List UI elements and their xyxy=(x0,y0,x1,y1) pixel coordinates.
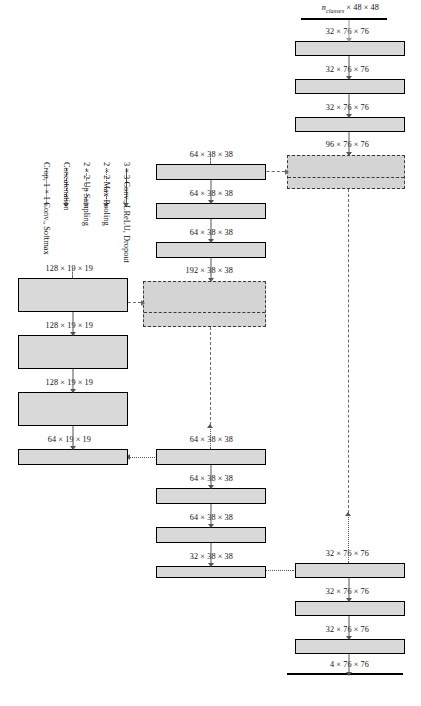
label-input: 4 × 76 × 76 xyxy=(330,661,369,669)
label-bottom-b: 128 × 19 × 19 xyxy=(46,322,93,330)
concat-level1-divider xyxy=(288,177,404,178)
legend-label-conv: 3 × 3 Conv., LReLU, Dropout xyxy=(122,162,130,263)
label-dec1-a: 32 × 76 × 76 xyxy=(326,104,369,112)
upsample-arrow-level2 xyxy=(210,154,211,164)
label-dec2-c: 64 × 38 × 38 xyxy=(190,151,233,159)
concat-level1-block xyxy=(287,155,405,189)
copy-arrow-level1 xyxy=(264,570,294,571)
skip-riser-level1 xyxy=(348,189,349,513)
label-bottom-a: 128 × 19 × 19 xyxy=(46,379,93,387)
encoder1-conv1-block xyxy=(295,639,405,654)
upsample-arrow-bottleneck xyxy=(72,268,73,278)
label-output: nclasses × 48 × 48 xyxy=(322,4,379,14)
label-enc2-c: 64 × 38 × 38 xyxy=(190,436,233,444)
encoder2-conv3-block xyxy=(156,449,266,465)
label-output-text: nclasses × 48 × 48 xyxy=(322,3,379,12)
legend-label-concat: Concatenation xyxy=(62,162,70,210)
encoder2-conv1-block xyxy=(156,527,266,543)
legend-label-upsample: 2 × 2 Up Sampling xyxy=(82,162,90,226)
legend: 3 × 3 Conv., LReLU, Dropout 2 × 2 Max-Po… xyxy=(15,76,135,206)
decoder1-conv3-block xyxy=(295,41,405,56)
encoder2-skip-block xyxy=(156,566,266,578)
skip-riser-level2 xyxy=(210,327,211,425)
decoder2-conv2-block xyxy=(156,203,266,219)
encoder1-conv2-block xyxy=(295,601,405,616)
decoder2-conv1-block xyxy=(156,242,266,258)
architecture-diagram: 4 × 76 × 76 32 × 76 × 76 32 × 76 × 76 32… xyxy=(0,0,421,706)
concat-level2-block xyxy=(143,281,266,327)
label-dec2-concat: 192 × 38 × 38 xyxy=(186,267,233,275)
decoder2-conv3-block xyxy=(156,164,266,180)
decoder1-conv1-block xyxy=(295,117,405,132)
maxpool-arrow-level1 xyxy=(348,513,349,563)
copy-arrow-level2 xyxy=(130,457,155,458)
label-enc1-a: 32 × 76 × 76 xyxy=(326,626,369,634)
label-enc1-b: 32 × 76 × 76 xyxy=(326,588,369,596)
maxpool-arrow-level2 xyxy=(210,425,211,449)
label-dec1-concat: 96 × 76 × 76 xyxy=(326,141,369,149)
encoder2-conv2-block xyxy=(156,488,266,504)
encoder1-conv3-block xyxy=(295,563,405,578)
bottleneck-conv2-block xyxy=(18,335,128,369)
label-output-sub: classes xyxy=(326,7,344,14)
legend-label-pool: 2 × 2 Max-Pooling xyxy=(102,162,110,226)
label-bottom-c: 128 × 19 × 19 xyxy=(46,265,93,273)
concat-level2-divider xyxy=(144,312,265,313)
input-layer xyxy=(287,673,403,675)
bottleneck-input-block xyxy=(18,449,128,465)
label-dec1-b: 32 × 76 × 76 xyxy=(326,66,369,74)
bottleneck-conv1-block xyxy=(18,392,128,426)
output-layer xyxy=(301,18,387,20)
decoder1-conv2-block xyxy=(295,79,405,94)
label-dec1-c: 32 × 76 × 76 xyxy=(326,28,369,36)
label-bottom-in: 64 × 19 × 19 xyxy=(48,436,91,444)
label-output-dims: × 48 × 48 xyxy=(344,3,379,12)
legend-label-softmax: Crop, 1 × 1 Conv., Softmax xyxy=(42,162,50,255)
bottleneck-conv3-block xyxy=(18,278,128,312)
